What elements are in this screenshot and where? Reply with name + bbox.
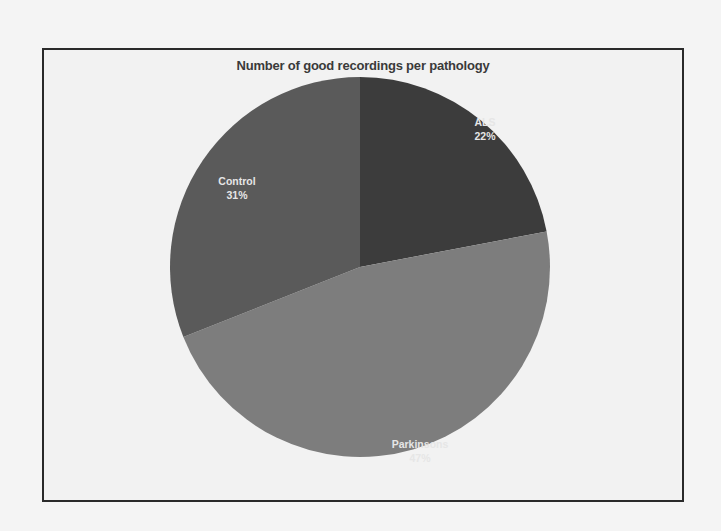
pie-chart: ALS22%Parkinsons47%Control31% <box>0 0 721 531</box>
